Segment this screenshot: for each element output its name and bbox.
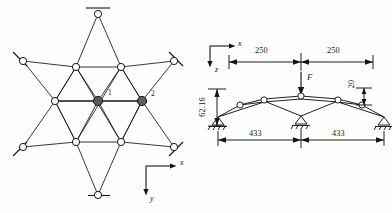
axis-label-x: x (179, 158, 184, 167)
arrowhead-left (229, 59, 237, 64)
strut (121, 142, 174, 147)
chord (121, 67, 142, 101)
axis-label-z: z (214, 65, 219, 74)
dimension-label-250-left: 250 (255, 46, 268, 55)
joint-node (261, 97, 267, 103)
x-axis-arrowhead (229, 43, 236, 48)
axis-label-x: x (237, 39, 242, 48)
chord (121, 101, 142, 142)
hatch (296, 126, 298, 130)
strut (76, 14, 98, 67)
strut (23, 61, 76, 67)
highlighted-node-2 (137, 96, 146, 105)
strut (23, 142, 76, 147)
joint-node (117, 138, 124, 145)
joint-node (94, 191, 101, 198)
joint-node (19, 57, 26, 64)
dimension-label-433-right: 433 (332, 129, 345, 138)
hatch (374, 127, 376, 131)
arrowhead-right (365, 59, 373, 64)
hatch (223, 127, 225, 131)
x-axis-arrowhead (170, 163, 177, 168)
web-member (264, 101, 301, 116)
joint-node (170, 57, 177, 64)
hatch (291, 126, 293, 130)
arrowhead-top (214, 89, 219, 97)
node-label-1: 1 (108, 88, 112, 97)
joint-node (237, 102, 243, 108)
support-right (374, 117, 392, 130)
axis-indicator-xz (207, 43, 235, 67)
load-label-F: F (306, 72, 313, 82)
arrowhead-mid-right (301, 137, 309, 142)
axis-indicator-xy (143, 163, 176, 195)
figure-container: 1 2 x y x z (0, 0, 392, 213)
strut (23, 61, 55, 101)
strut (76, 142, 98, 195)
elevation-arch-truss: x z (196, 0, 392, 213)
joint-node (335, 97, 341, 103)
hatch (208, 127, 210, 131)
strut (121, 61, 174, 67)
node-label-2: 2 (151, 89, 155, 98)
joint-node (51, 97, 58, 104)
chord (55, 101, 76, 142)
joint-node (117, 63, 124, 70)
support-triangle (295, 116, 307, 124)
dimension-label-433-left: 433 (249, 129, 262, 138)
strut (98, 14, 121, 67)
bottom-dimension-line (218, 129, 384, 148)
y-axis-arrowhead (143, 189, 148, 196)
hatch (213, 127, 215, 131)
strut (98, 142, 121, 195)
hatch (389, 127, 391, 131)
arrowhead-mid-right (301, 59, 309, 64)
web-member (301, 101, 338, 116)
hatch (301, 126, 303, 130)
lower-chord (218, 99, 384, 117)
arrowhead-left (218, 137, 226, 142)
arrowhead-top (362, 88, 367, 94)
plan-view-star-grid: 1 2 x y (0, 0, 196, 213)
highlighted-node-1 (93, 96, 102, 105)
chord (55, 67, 76, 101)
dimension-label-250-right: 250 (327, 46, 340, 55)
strut (23, 101, 55, 147)
joint-node (72, 138, 79, 145)
height-dimension-label: 62.16 (198, 97, 207, 116)
hatch (218, 127, 220, 131)
arrowhead-mid-left (293, 137, 301, 142)
hatch (379, 127, 381, 131)
strut (142, 101, 174, 147)
joint-node (72, 63, 79, 70)
arrowhead-mid-left (293, 59, 301, 64)
support-center (291, 116, 310, 129)
hatch (384, 127, 386, 131)
strut (142, 61, 174, 101)
joint-node (94, 10, 101, 17)
joint-node (298, 93, 304, 99)
axis-label-y: y (149, 194, 154, 203)
z-axis-arrowhead (207, 61, 212, 68)
arrowhead-right (376, 137, 384, 142)
joint-node (170, 143, 177, 150)
hatch (306, 126, 308, 130)
support-triangle (378, 117, 390, 125)
rise-dimension-label: 20 (347, 80, 356, 89)
joint-node (19, 143, 26, 150)
